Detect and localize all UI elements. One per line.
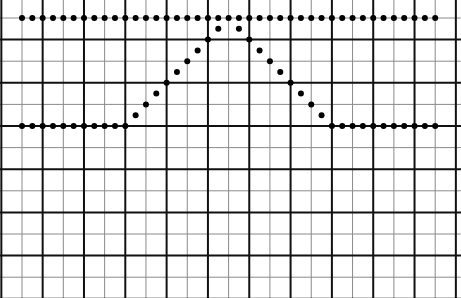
top-trace-point — [329, 15, 335, 21]
top-trace-point — [81, 15, 87, 21]
pulse-trace-point — [246, 37, 252, 43]
pulse-trace-point — [236, 26, 242, 32]
top-trace-point — [370, 15, 376, 21]
pulse-trace-point — [143, 101, 149, 107]
pulse-trace-point — [29, 123, 35, 129]
major-gridlines — [0, 0, 461, 298]
top-trace-point — [277, 15, 283, 21]
plot-canvas — [0, 0, 461, 298]
pulse-trace-point — [288, 80, 294, 86]
pulse-trace-point — [19, 123, 25, 129]
pulse-trace-point — [112, 123, 118, 129]
top-trace-point — [112, 15, 118, 21]
top-trace-point — [215, 15, 221, 21]
pulse-trace-point — [381, 123, 387, 129]
top-trace-point — [401, 15, 407, 21]
pulse-trace-point — [267, 58, 273, 64]
top-trace-point — [236, 15, 242, 21]
pulse-trace-point — [432, 123, 438, 129]
top-trace-point — [412, 15, 418, 21]
top-trace-point — [381, 15, 387, 21]
top-trace-point — [40, 15, 46, 21]
top-trace-point — [257, 15, 263, 21]
pulse-trace-point — [50, 123, 56, 129]
pulse-trace-point — [71, 123, 77, 129]
grid-plot — [0, 0, 461, 298]
top-trace-point — [308, 15, 314, 21]
top-trace-point — [19, 15, 25, 21]
top-trace-point — [153, 15, 159, 21]
pulse-trace-point — [81, 123, 87, 129]
pulse-trace-point — [412, 123, 418, 129]
pulse-trace-point — [319, 112, 325, 118]
pulse-trace-point — [164, 80, 170, 86]
top-trace-point — [267, 15, 273, 21]
top-trace-point — [246, 15, 252, 21]
top-trace-point — [422, 15, 428, 21]
top-trace-point — [350, 15, 356, 21]
pulse-trace-point — [339, 123, 345, 129]
pulse-trace-point — [205, 37, 211, 43]
top-trace-point — [164, 15, 170, 21]
pulse-trace-point — [370, 123, 376, 129]
top-trace-point — [122, 15, 128, 21]
pulse-trace-point — [422, 123, 428, 129]
pulse-trace-point — [133, 112, 139, 118]
top-trace-point — [71, 15, 77, 21]
top-trace-point — [205, 15, 211, 21]
pulse-trace-point — [184, 58, 190, 64]
top-trace-point — [29, 15, 35, 21]
top-trace-point — [91, 15, 97, 21]
pulse-trace-point — [153, 91, 159, 97]
top-trace-point — [339, 15, 345, 21]
top-trace-point — [226, 15, 232, 21]
top-trace-point — [102, 15, 108, 21]
top-trace-point — [288, 15, 294, 21]
pulse-trace-point — [360, 123, 366, 129]
top-trace-point — [50, 15, 56, 21]
top-trace-point — [143, 15, 149, 21]
top-trace-point — [298, 15, 304, 21]
pulse-trace-point — [308, 101, 314, 107]
top-trace-point — [60, 15, 66, 21]
pulse-trace-point — [40, 123, 46, 129]
pulse-trace-point — [298, 91, 304, 97]
top-trace-point — [360, 15, 366, 21]
top-trace-point — [391, 15, 397, 21]
pulse-trace-point — [277, 69, 283, 75]
pulse-trace-point — [391, 123, 397, 129]
minor-gridlines — [0, 0, 461, 298]
pulse-trace-point — [174, 69, 180, 75]
pulse-trace-point — [122, 123, 128, 129]
pulse-trace-point — [195, 47, 201, 53]
pulse-trace-point — [60, 123, 66, 129]
top-trace-point — [319, 15, 325, 21]
top-trace-point — [432, 15, 438, 21]
pulse-trace-point — [215, 26, 221, 32]
top-trace-point — [174, 15, 180, 21]
top-trace-point — [184, 15, 190, 21]
pulse-trace-point — [329, 123, 335, 129]
pulse-trace-point — [91, 123, 97, 129]
pulse-trace-point — [350, 123, 356, 129]
top-trace-point — [195, 15, 201, 21]
pulse-trace-point — [401, 123, 407, 129]
pulse-trace-point — [257, 47, 263, 53]
top-trace-point — [133, 15, 139, 21]
pulse-trace-point — [102, 123, 108, 129]
